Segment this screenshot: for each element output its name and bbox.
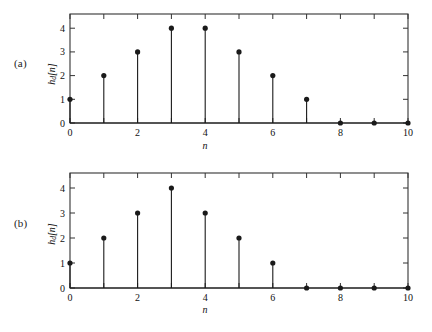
y-tick-label: 1 [60, 94, 65, 105]
x-tick-label: 8 [338, 292, 343, 303]
x-tick-label: 6 [270, 127, 275, 138]
stem-marker [67, 260, 72, 265]
stem-marker [236, 49, 241, 54]
x-axis-label-a: n [190, 140, 220, 151]
chart-panel-a: (a) hd[n] 024681001234 n [0, 0, 432, 166]
stem-marker [405, 285, 410, 290]
stem-marker [270, 73, 275, 78]
stem-marker [338, 285, 343, 290]
chart-panel-b: (b) hd[n] 024681001234 n [0, 166, 432, 332]
x-axis-label-b: n [190, 304, 220, 315]
stem-marker [270, 260, 275, 265]
y-tick-label: 0 [60, 283, 65, 294]
y-tick-label: 0 [60, 118, 65, 129]
x-tick-label: 0 [68, 292, 73, 303]
y-tick-label: 4 [60, 183, 65, 194]
figure-container: (a) hd[n] 024681001234 n (b) hd[n] 02468… [0, 0, 432, 332]
stem-marker [304, 285, 309, 290]
x-tick-label: 8 [338, 127, 343, 138]
stem-marker [236, 235, 241, 240]
y-tick-label: 4 [60, 23, 65, 34]
stem-marker [135, 210, 140, 215]
x-tick-label: 10 [403, 127, 413, 138]
stem-marker [203, 26, 208, 31]
x-tick-label: 4 [203, 292, 208, 303]
x-tick-label: 6 [270, 292, 275, 303]
y-tick-label: 3 [60, 208, 65, 219]
x-tick-label: 0 [68, 127, 73, 138]
x-tick-label: 10 [403, 292, 413, 303]
y-tick-label: 2 [60, 233, 65, 244]
stem-marker [101, 235, 106, 240]
y-tick-label: 1 [60, 258, 65, 269]
x-tick-label: 2 [135, 127, 140, 138]
stem-marker [101, 73, 106, 78]
y-tick-label: 3 [60, 46, 65, 57]
stem-marker [169, 26, 174, 31]
stem-marker [372, 285, 377, 290]
x-tick-label: 4 [203, 127, 208, 138]
y-tick-label: 2 [60, 70, 65, 81]
stem-marker [67, 97, 72, 102]
stem-marker [203, 210, 208, 215]
stem-marker [372, 120, 377, 125]
stem-marker [169, 185, 174, 190]
stem-marker [405, 120, 410, 125]
stem-marker [304, 97, 309, 102]
stem-marker [338, 120, 343, 125]
x-tick-label: 2 [135, 292, 140, 303]
stem-marker [135, 49, 140, 54]
